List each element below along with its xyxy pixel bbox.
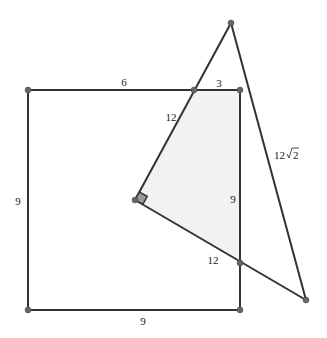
vertex-square-bottom-left bbox=[25, 307, 31, 313]
label-triangle-hypotenuse: 12 2 bbox=[274, 148, 299, 161]
vertex-triangle-apex bbox=[228, 20, 234, 26]
intersection-top bbox=[191, 87, 197, 93]
label-overlap-right-side: 9 bbox=[230, 193, 236, 205]
label-top-left-segment: 6 bbox=[121, 76, 127, 88]
vertex-triangle-right-angle bbox=[132, 197, 138, 203]
hypotenuse-coefficient: 12 bbox=[274, 149, 285, 161]
intersection-right bbox=[237, 260, 243, 266]
label-triangle-lower-leg: 12 bbox=[208, 254, 219, 266]
label-top-right-segment: 3 bbox=[216, 77, 222, 89]
geometry-diagram: 6 3 9 9 9 12 12 12 2 bbox=[0, 0, 327, 338]
label-square-bottom-side: 9 bbox=[140, 315, 146, 327]
label-square-left-side: 9 bbox=[15, 195, 21, 207]
vertex-square-top-left bbox=[25, 87, 31, 93]
label-triangle-upper-leg: 12 bbox=[166, 111, 177, 123]
vertex-square-top-right bbox=[237, 87, 243, 93]
vertex-triangle-bottom bbox=[303, 297, 309, 303]
vertex-square-bottom-right bbox=[237, 307, 243, 313]
overlap-shaded-region bbox=[135, 90, 240, 263]
hypotenuse-radicand: 2 bbox=[293, 149, 299, 161]
